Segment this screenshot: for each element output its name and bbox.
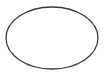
ellipse-shape (6, 7, 98, 69)
diagram-canvas (0, 0, 104, 75)
diagram-svg (0, 0, 104, 75)
